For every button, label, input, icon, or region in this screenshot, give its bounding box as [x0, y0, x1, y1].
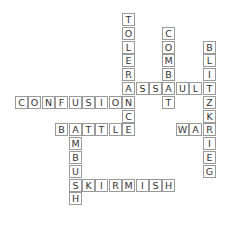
grid-cell: U — [69, 96, 82, 109]
grid-cell: M — [162, 54, 175, 67]
grid-cell: O — [28, 96, 41, 109]
grid-cell: L — [203, 54, 216, 67]
grid-cell: C — [15, 96, 28, 109]
grid-cell: S — [69, 179, 82, 192]
grid-cell: S — [149, 82, 162, 95]
grid-cell: T — [162, 96, 175, 109]
grid-cell: L — [109, 123, 122, 136]
grid-cell: B — [69, 151, 82, 164]
grid-cell: A — [122, 82, 135, 95]
grid-cell: B — [55, 123, 68, 136]
grid-cell: I — [136, 179, 149, 192]
grid-cell: O — [162, 41, 175, 54]
grid-cell: T — [203, 82, 216, 95]
grid-cell: G — [203, 165, 216, 178]
grid-cell: H — [162, 179, 175, 192]
grid-cell: B — [203, 41, 216, 54]
grid-cell: S — [149, 179, 162, 192]
grid-cell: T — [122, 13, 135, 26]
crossword-grid: TOLERANCECOMBATBLITZKRIEGSSULCONFUSIOBAT… — [0, 0, 247, 231]
grid-cell: C — [122, 110, 135, 123]
grid-cell: U — [176, 82, 189, 95]
grid-cell: E — [203, 151, 216, 164]
grid-cell: S — [82, 96, 95, 109]
grid-cell: O — [109, 96, 122, 109]
grid-cell: K — [82, 179, 95, 192]
grid-cell: Z — [203, 96, 216, 109]
grid-cell: R — [122, 68, 135, 81]
grid-cell: F — [55, 96, 68, 109]
grid-cell: I — [95, 96, 108, 109]
grid-cell: L — [122, 41, 135, 54]
grid-cell: I — [203, 137, 216, 150]
grid-cell: M — [122, 179, 135, 192]
grid-cell: W — [176, 123, 189, 136]
grid-cell: B — [162, 68, 175, 81]
grid-cell: A — [162, 82, 175, 95]
grid-cell: T — [82, 123, 95, 136]
grid-cell: N — [42, 96, 55, 109]
grid-cell: M — [69, 137, 82, 150]
grid-cell: T — [95, 123, 108, 136]
grid-cell: I — [203, 68, 216, 81]
grid-cell: H — [69, 192, 82, 205]
grid-cell: E — [122, 123, 135, 136]
grid-cell: C — [162, 27, 175, 40]
grid-cell: O — [122, 27, 135, 40]
grid-cell: I — [95, 179, 108, 192]
grid-cell: S — [136, 82, 149, 95]
grid-cell: E — [122, 54, 135, 67]
grid-cell: K — [203, 110, 216, 123]
grid-cell: N — [122, 96, 135, 109]
grid-cell: L — [189, 82, 202, 95]
grid-cell: A — [69, 123, 82, 136]
grid-cell: R — [203, 123, 216, 136]
grid-cell: A — [189, 123, 202, 136]
grid-cell: R — [109, 179, 122, 192]
grid-cell: U — [69, 165, 82, 178]
